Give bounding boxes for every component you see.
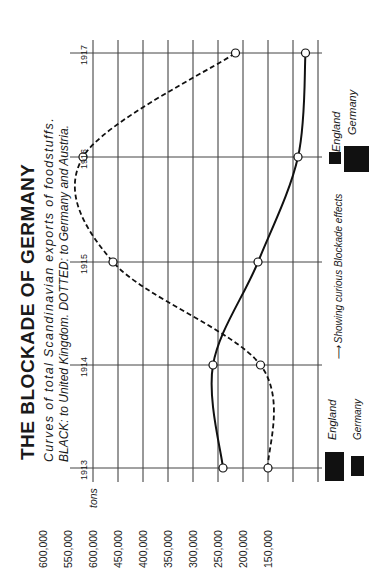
data-point	[294, 153, 302, 161]
plot-area	[0, 0, 387, 583]
annotation-text: Showing curious Blockade effects	[333, 194, 344, 344]
x-tick-label-year: 1917	[79, 45, 89, 65]
y-tick-label: 250,000	[212, 530, 224, 568]
data-point	[257, 361, 265, 369]
y-tick-label: 400,000	[137, 530, 149, 568]
y-tick-label: 300,000	[187, 530, 199, 568]
x-tick-label-year: 1915	[79, 254, 89, 274]
y-tick-label: 450,000	[112, 530, 124, 568]
arrow-icon: ⟶	[333, 343, 344, 360]
legend-1916-england-box	[329, 152, 341, 164]
data-point	[254, 258, 262, 266]
x-tick-label-year: 1914	[79, 357, 89, 377]
data-point	[109, 258, 117, 266]
data-point	[302, 49, 310, 57]
legend-1913-germany-label: Germany	[352, 399, 363, 440]
x-tick-label-year: 1916	[79, 149, 89, 169]
y-unit-label: tons	[87, 488, 99, 508]
legend-annotation: ⟶ Showing curious Blockade effects	[333, 194, 344, 360]
y-tick-label: 350,000	[162, 530, 174, 568]
legend-1916-germany-box	[344, 146, 369, 172]
y-tick-label: 550,000	[62, 530, 74, 568]
series-germany-line	[75, 53, 274, 468]
legend-1916-england-label: England	[330, 112, 342, 152]
legend-1913-england-box	[325, 452, 344, 481]
data-point	[219, 464, 227, 472]
x-tick-label-year: 1913	[79, 460, 89, 480]
y-tick-label: 200,000	[237, 530, 249, 568]
legend-1913-england-label: England	[326, 400, 338, 440]
y-tick-label: 600,000	[87, 530, 99, 568]
data-point	[264, 464, 272, 472]
data-point	[209, 361, 217, 369]
legend-1913-germany-box	[351, 456, 364, 476]
y-tick-label: 150,000	[262, 530, 274, 568]
data-point	[232, 49, 240, 57]
y-tick-label: 600,000	[37, 530, 49, 568]
legend-1916-germany-label: Germany	[346, 90, 358, 135]
